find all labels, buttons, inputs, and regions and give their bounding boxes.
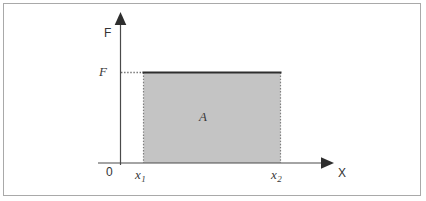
x1-base: x — [135, 167, 141, 182]
x-axis-arrow-icon — [321, 157, 334, 169]
y-axis-arrow-icon — [115, 12, 127, 25]
x2-subscript: 2 — [277, 174, 282, 184]
figure-root: F F X 0 x1 x2 A — [0, 0, 426, 201]
x-axis-label: X — [338, 167, 346, 179]
plot-area: F F X 0 x1 x2 A — [0, 0, 426, 201]
plot-graphics — [0, 0, 426, 201]
x1-tick-label: x1 — [135, 168, 146, 184]
force-level-tick-label: F — [99, 65, 107, 78]
y-axis-label: F — [104, 27, 111, 39]
x1-subscript: 1 — [141, 174, 146, 184]
x2-base: x — [271, 167, 277, 182]
x2-tick-label: x2 — [271, 168, 282, 184]
origin-label: 0 — [106, 166, 113, 178]
area-region-label: A — [199, 110, 207, 123]
area-region-fill — [144, 73, 281, 164]
